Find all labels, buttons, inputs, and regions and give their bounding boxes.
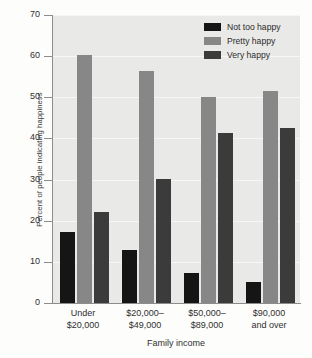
y-tick-label: 20 bbox=[0, 215, 40, 225]
x-tick-label-line: and over bbox=[238, 320, 300, 332]
legend-label-pretty-happy: Pretty happy bbox=[227, 36, 275, 46]
y-tick-mark bbox=[44, 262, 52, 263]
legend-item-pretty-happy: Pretty happy bbox=[204, 34, 281, 48]
chart-legend: Not too happy Pretty happy Very happy bbox=[204, 20, 281, 62]
bar bbox=[280, 128, 295, 303]
y-tick-label: 0 bbox=[0, 297, 40, 307]
y-tick-label: 70 bbox=[0, 9, 40, 19]
legend-item-very-happy: Very happy bbox=[204, 48, 281, 62]
y-tick-mark bbox=[44, 303, 52, 304]
x-axis-line bbox=[52, 303, 301, 304]
bar bbox=[184, 273, 199, 303]
x-axis-title: Family income bbox=[52, 338, 300, 348]
y-tick-label: 10 bbox=[0, 256, 40, 266]
x-tick-label-line: $50,000– bbox=[176, 308, 238, 320]
y-tick-label: 50 bbox=[0, 91, 40, 101]
bar bbox=[201, 97, 216, 303]
x-tick-label-line: $89,000 bbox=[176, 320, 238, 332]
x-tick-label: $20,000–$49,000 bbox=[114, 308, 176, 331]
bar bbox=[263, 91, 278, 303]
bar bbox=[218, 133, 233, 303]
legend-swatch-icon-not-too-happy bbox=[204, 23, 221, 31]
x-tick-label-line: $20,000 bbox=[52, 320, 114, 332]
y-tick-mark bbox=[44, 138, 52, 139]
legend-swatch-icon-very-happy bbox=[204, 51, 221, 59]
bar bbox=[122, 250, 137, 303]
y-tick-mark bbox=[44, 56, 52, 57]
x-tick-label: Under$20,000 bbox=[52, 308, 114, 331]
bar bbox=[246, 282, 261, 303]
bar-group bbox=[115, 15, 177, 303]
x-tick-label: $90,000and over bbox=[238, 308, 300, 331]
y-tick-label: 40 bbox=[0, 132, 40, 142]
x-tick-label-line: $20,000– bbox=[114, 308, 176, 320]
y-tick-label: 60 bbox=[0, 50, 40, 60]
y-tick-mark bbox=[44, 180, 52, 181]
legend-swatch-icon-pretty-happy bbox=[204, 37, 221, 45]
bar bbox=[77, 55, 92, 303]
x-tick-label: $50,000–$89,000 bbox=[176, 308, 238, 331]
x-tick-label-line: Under bbox=[52, 308, 114, 320]
legend-label-not-too-happy: Not too happy bbox=[227, 22, 281, 32]
bar-chart-figure: Percent of people indicating happiness 0… bbox=[0, 0, 312, 358]
y-axis-title: Percent of people indicating happiness bbox=[35, 45, 44, 275]
y-tick-mark bbox=[44, 221, 52, 222]
y-tick-mark bbox=[44, 97, 52, 98]
y-tick-mark bbox=[44, 15, 52, 16]
y-tick-label: 30 bbox=[0, 174, 40, 184]
bar bbox=[60, 232, 75, 303]
bar bbox=[156, 179, 171, 303]
legend-item-not-too-happy: Not too happy bbox=[204, 20, 281, 34]
x-tick-label-line: $90,000 bbox=[238, 308, 300, 320]
bar-group bbox=[53, 15, 115, 303]
bar bbox=[94, 212, 109, 303]
x-tick-label-line: $49,000 bbox=[114, 320, 176, 332]
bar bbox=[139, 71, 154, 303]
legend-label-very-happy: Very happy bbox=[227, 50, 270, 60]
